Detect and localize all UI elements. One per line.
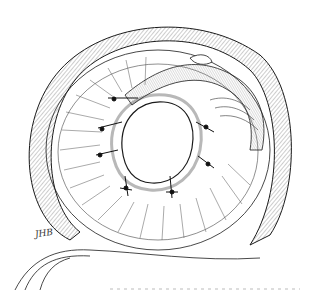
cords <box>15 250 260 290</box>
central-opening <box>112 95 202 190</box>
tendon-tip <box>190 55 212 65</box>
anatomical-illustration <box>0 0 309 292</box>
cutoff-caption <box>0 286 309 292</box>
